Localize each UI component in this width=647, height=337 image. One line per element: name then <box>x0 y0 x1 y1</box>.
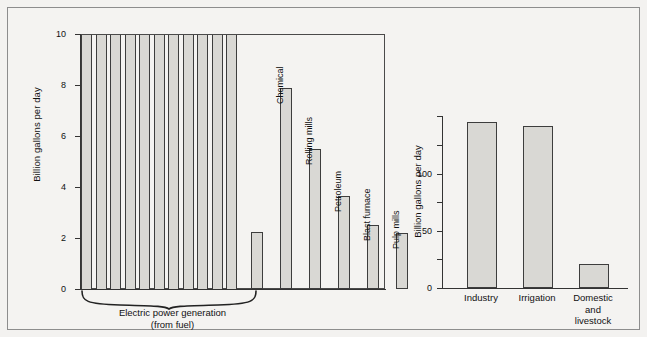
left-ytick-6 <box>75 136 80 137</box>
right-ytick-label-0: 0 <box>400 284 432 293</box>
bar-unlabeled-2-25 <box>251 232 263 289</box>
bar-electric-power-5 <box>139 35 150 289</box>
bar-domestic-and-livestock <box>579 264 609 288</box>
electric-power-caption-line2: (from fuel) <box>80 319 265 331</box>
left-ytick-2 <box>75 238 80 239</box>
bar-electric-power-11 <box>226 35 237 289</box>
right-ytick-25 <box>437 259 442 260</box>
left-ytick-label-2: 2 <box>26 234 66 243</box>
xcat-industry-line1: Industry <box>451 292 511 304</box>
xcat-label-domestic-and-livestock: Domestic and livestock <box>560 292 626 327</box>
right-ytick-150 <box>437 116 442 117</box>
xcat-label-irrigation: Irrigation <box>507 292 567 304</box>
figure-outer-frame: 10 8 6 4 2 0 Billion gallons per day <box>7 7 640 330</box>
bar-label-blast-furnace: Blast furnace <box>362 188 372 241</box>
xcat-domestic-line1: Domestic <box>560 292 626 304</box>
bar-industry <box>467 122 497 288</box>
bar-electric-power-9 <box>197 35 208 289</box>
left-ytick-8 <box>75 85 80 86</box>
bar-electric-power-6 <box>154 35 165 289</box>
bar-label-chemical: Chemical <box>275 66 285 104</box>
bar-electric-power-10 <box>212 35 223 289</box>
right-y-axis-title: Billion gallons per day <box>412 112 423 272</box>
right-ytick-125 <box>437 145 442 146</box>
right-bars-layer <box>443 116 628 288</box>
xcat-domestic-line2: and <box>560 304 626 316</box>
bar-electric-power-1 <box>81 35 92 289</box>
bar-label-petroleum: Petroleum <box>333 171 343 212</box>
right-ytick-75 <box>437 202 442 203</box>
right-x-axis-line <box>442 288 628 289</box>
chart-right-total-withdrawals: 100 50 0 Billion gallons per day Industr… <box>400 108 647 333</box>
bar-label-rolling-mills: Rolling mills <box>304 117 314 165</box>
bar-electric-power-8 <box>183 35 194 289</box>
left-ytick-10 <box>75 34 80 35</box>
left-ytick-label-0: 0 <box>26 285 66 294</box>
bar-rolling-mills <box>309 149 321 289</box>
xcat-irrigation-line1: Irrigation <box>507 292 567 304</box>
right-ytick-100 <box>437 174 442 175</box>
electric-power-caption-line1: Electric power generation <box>80 307 265 319</box>
bar-electric-power-2 <box>96 35 107 289</box>
right-ytick-50 <box>437 231 442 232</box>
right-ytick-0 <box>437 288 442 289</box>
left-bars-layer <box>81 35 385 289</box>
left-ytick-4 <box>75 187 80 188</box>
bar-electric-power-7 <box>168 35 179 289</box>
electric-power-caption: Electric power generation (from fuel) <box>80 307 265 331</box>
bar-chemical <box>280 88 292 289</box>
bar-electric-power-4 <box>125 35 136 289</box>
bar-irrigation <box>523 126 553 288</box>
xcat-domestic-line3: livestock <box>560 315 626 327</box>
chart-left-industrial-water-use: 10 8 6 4 2 0 Billion gallons per day <box>18 19 390 327</box>
xcat-label-industry: Industry <box>451 292 511 304</box>
figure-page: 10 8 6 4 2 0 Billion gallons per day <box>0 0 647 337</box>
left-y-axis-title: Billion gallons per day <box>31 35 42 235</box>
bar-electric-power-3 <box>110 35 121 289</box>
